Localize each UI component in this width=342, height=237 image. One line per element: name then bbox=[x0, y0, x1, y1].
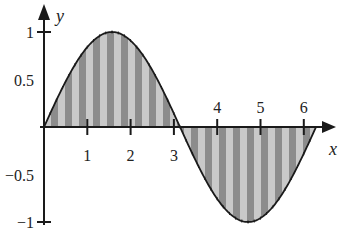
y-axis-arrow-icon bbox=[38, 4, 50, 20]
x-tick-label: 5 bbox=[257, 99, 265, 116]
x-tick-label: 1 bbox=[83, 147, 91, 164]
y-tick-label: −1 bbox=[17, 214, 34, 231]
x-tick-label: 6 bbox=[300, 99, 308, 116]
x-tick-label: 4 bbox=[213, 99, 221, 116]
x-axis-label: x bbox=[328, 139, 337, 159]
y-tick-label: 0.5 bbox=[14, 72, 34, 89]
x-axis-arrow-icon bbox=[322, 121, 336, 133]
y-tick-label: 1 bbox=[26, 24, 34, 41]
y-axis-label: y bbox=[54, 6, 64, 26]
x-tick-label: 2 bbox=[127, 147, 135, 164]
x-tick-label: 3 bbox=[170, 147, 178, 164]
sine-area-chart: 123456 x 10.5−0.5−1 y bbox=[0, 0, 342, 237]
y-tick-label: −0.5 bbox=[5, 167, 34, 184]
